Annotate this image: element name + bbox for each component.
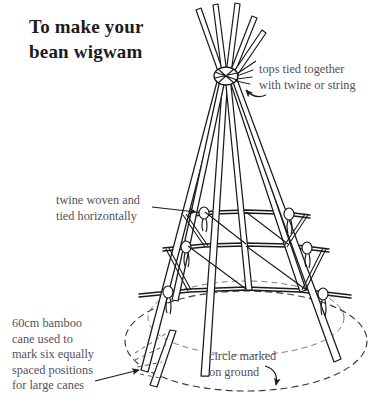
annotation-tops-tied: tops tied together with twine or string bbox=[259, 62, 356, 93]
annotation-bamboo-line-5: for large canes bbox=[12, 378, 94, 394]
leader-bamboo bbox=[95, 370, 139, 381]
apex-knot bbox=[214, 67, 253, 85]
annotation-circle-line-2: on ground bbox=[209, 365, 276, 381]
annotation-ground-circle: circle marked on ground bbox=[209, 349, 276, 380]
annotation-bamboo-cane: 60cm bamboo cane used to mark six equall… bbox=[12, 316, 94, 394]
annotation-bamboo-line-2: cane used to bbox=[12, 332, 94, 348]
annotation-bamboo-line-4: spaced positions bbox=[12, 363, 94, 379]
page-title-line-2: bean wigwam bbox=[29, 39, 209, 64]
annotation-tops-line-1: tops tied together bbox=[259, 62, 356, 78]
annotation-twine-line-1: twine woven and bbox=[56, 193, 140, 209]
annotation-twine-woven: twine woven and tied horizontally bbox=[56, 193, 140, 224]
annotation-twine-line-2: tied horizontally bbox=[56, 209, 140, 225]
annotation-bamboo-line-1: 60cm bamboo bbox=[12, 316, 94, 332]
annotation-tops-line-2: with twine or string bbox=[259, 78, 356, 94]
figure-canvas: To make your bean wigwam tops tied toget… bbox=[0, 0, 385, 417]
annotation-circle-line-1: circle marked bbox=[209, 349, 276, 365]
annotation-bamboo-line-3: mark six equally bbox=[12, 347, 94, 363]
page-title-line-1: To make your bbox=[29, 16, 144, 37]
page-title: To make your bean wigwam bbox=[29, 14, 209, 64]
